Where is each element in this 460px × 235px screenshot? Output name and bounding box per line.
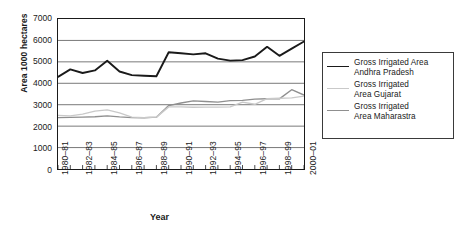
- series-line: [58, 90, 304, 118]
- legend-line-icon: [327, 105, 349, 114]
- x-axis-title: Year: [150, 212, 169, 222]
- y-tick-label: 0: [18, 166, 52, 175]
- chart-legend: Gross Irrigated AreaAndhra PradeshGross …: [322, 52, 454, 139]
- x-tick-label: 1996–97: [259, 141, 268, 175]
- y-tick-label: 6000: [18, 36, 52, 45]
- y-tick-label: 7000: [18, 14, 52, 23]
- x-tick-label: 1998–99: [284, 141, 293, 175]
- x-tick-label: 1990–91: [185, 141, 194, 175]
- y-tick-label: 4000: [18, 79, 52, 88]
- legend-item: Gross IrrigatedArea Gujarat: [327, 80, 449, 99]
- chart-figure: Area 1000 hectares 010002000300040005000…: [0, 0, 460, 235]
- legend-item: Gross Irrigated AreaAndhra Pradesh: [327, 58, 449, 77]
- legend-line-icon: [327, 83, 349, 92]
- legend-label-line1: Gross Irrigated: [354, 80, 409, 90]
- y-tick-label: 5000: [18, 57, 52, 66]
- legend-label-line2: Andhra Pradesh: [354, 68, 428, 78]
- series-line: [58, 96, 304, 117]
- series-line: [58, 42, 304, 77]
- legend-item: Gross IrrigatedArea Maharastra: [327, 102, 449, 121]
- x-tick-label: 2000–01: [309, 141, 318, 175]
- legend-label-line2: Area Gujarat: [354, 90, 409, 100]
- legend-label-line1: Gross Irrigated: [354, 102, 416, 112]
- legend-label: Gross Irrigated AreaAndhra Pradesh: [354, 58, 428, 77]
- legend-label: Gross IrrigatedArea Maharastra: [354, 102, 416, 121]
- x-tick-label: 1982–83: [85, 141, 94, 175]
- y-tick-label: 2000: [18, 123, 52, 132]
- x-tick-label: 1992–93: [209, 141, 218, 175]
- x-tick-label: 1980–81: [61, 141, 70, 175]
- x-tick-label: 1988–89: [160, 141, 169, 175]
- x-tick-label: 1986–87: [135, 141, 144, 175]
- legend-label: Gross IrrigatedArea Gujarat: [354, 80, 409, 99]
- legend-line-icon: [327, 61, 349, 70]
- x-tick-label: 1994–95: [234, 141, 243, 175]
- legend-label-line2: Area Maharastra: [354, 112, 416, 122]
- legend-label-line1: Gross Irrigated Area: [354, 58, 428, 68]
- y-tick-label: 3000: [18, 101, 52, 110]
- x-tick-label: 1984–85: [110, 141, 119, 175]
- y-tick-label: 1000: [18, 144, 52, 153]
